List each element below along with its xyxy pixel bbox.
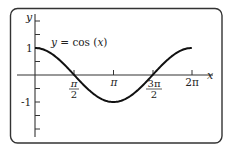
x-tick-label-3pi-over-2-den: 2 [151,89,157,100]
x-tick-label-2pi: 2π [185,76,199,88]
y-tick-label-1: 1 [26,42,33,54]
x-tick-label-pi: π [110,76,119,88]
y-axis-label: y [25,11,33,24]
x-ticks [74,70,192,75]
x-tick-label-pi-over-2-den: 2 [71,89,77,100]
x-tick-label-3pi-over-2-num: 3π [148,78,161,89]
y-tick-label-minus-1: -1 [21,96,31,108]
cosine-chart: y x y = cos (x) 1 -1 π 2 π 3π 2 2π [0,0,229,153]
x-tick-label-pi-over-2-num: π [70,78,78,89]
x-axis-label: x [207,69,214,82]
curve-label: y = cos (x) [50,36,107,48]
